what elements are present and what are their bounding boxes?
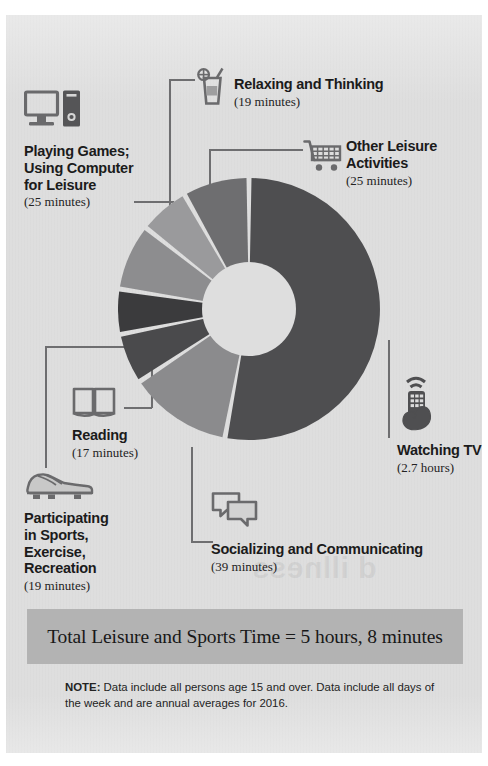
drink-glass-icon (195, 67, 229, 111)
open-book-icon (72, 385, 138, 423)
infographic-page: d illness (6, 15, 482, 753)
tv-remote-hand-icon (397, 368, 482, 438)
donut-svg (118, 178, 380, 440)
chart-note-text: Data include all persons age 15 and over… (65, 681, 434, 709)
callout-reading-title: Reading (72, 427, 138, 444)
callout-other-leisure-value: (25 minutes) (346, 173, 437, 189)
connector-watching-tv-vertical (388, 340, 390, 438)
total-leisure-time-bar: Total Leisure and Sports Time = 5 hours,… (27, 609, 463, 664)
total-leisure-time-text: Total Leisure and Sports Time = 5 hours,… (47, 626, 443, 648)
callout-other-leisure-title-line2: Activities (346, 155, 437, 172)
donut-hole (202, 262, 296, 356)
callout-other-leisure-title-line1: Other Leisure (346, 138, 437, 155)
connector-other-leisure-horizontal (209, 149, 303, 151)
callout-playing-games-title-line2: Using Computer (24, 160, 174, 177)
chart-note-prefix: NOTE: (65, 681, 100, 693)
callout-sports-title-line3: Exercise, (24, 544, 164, 561)
shopping-cart-icon (303, 139, 343, 177)
callout-playing-games-title: Playing Games; Using Computer for Leisur… (24, 143, 174, 193)
callout-socializing[interactable]: Socializing and Communicating (39 minute… (211, 491, 423, 574)
callout-playing-games-title-line3: for Leisure (24, 177, 174, 194)
connector-socializing-vertical (191, 447, 193, 542)
callout-other-leisure-title: Other Leisure Activities (346, 138, 437, 172)
connector-reading-vertical (45, 346, 47, 468)
callout-sports-title: Participating in Sports, Exercise, Recre… (24, 510, 164, 577)
desktop-computer-icon (24, 89, 174, 137)
sport-shoe-icon (24, 465, 164, 505)
callout-reading[interactable]: Reading (17 minutes) (72, 385, 138, 460)
callout-relaxing-thinking-value: (19 minutes) (234, 94, 383, 110)
callout-watching-tv-value: (2.7 hours) (397, 460, 482, 476)
connector-socializing-horizontal (191, 541, 213, 543)
connector-relaxing-horizontal (169, 79, 195, 81)
callout-reading-value: (17 minutes) (72, 445, 138, 461)
callout-playing-games[interactable]: Playing Games; Using Computer for Leisur… (24, 89, 174, 210)
callout-sports-title-line4: Recreation (24, 560, 164, 577)
callout-other-leisure[interactable]: Other Leisure Activities (25 minutes) (303, 137, 437, 188)
callout-playing-games-value: (25 minutes) (24, 194, 174, 210)
callout-sports-title-line2: in Sports, (24, 527, 164, 544)
leisure-time-donut-chart (118, 178, 380, 440)
callout-socializing-value: (39 minutes) (211, 559, 423, 575)
callout-relaxing-thinking[interactable]: Relaxing and Thinking (19 minutes) (195, 67, 383, 111)
chart-note: NOTE: Data include all persons age 15 an… (65, 679, 445, 711)
callout-socializing-title: Socializing and Communicating (211, 541, 423, 558)
callout-watching-tv-title: Watching TV (397, 442, 482, 459)
speech-bubbles-icon (211, 491, 423, 535)
callout-watching-tv[interactable]: Watching TV (2.7 hours) (397, 368, 482, 475)
callout-playing-games-title-line1: Playing Games; (24, 143, 174, 160)
callout-sports-value: (19 minutes) (24, 578, 164, 594)
callout-relaxing-thinking-title: Relaxing and Thinking (234, 76, 383, 93)
callout-sports-title-line1: Participating (24, 510, 164, 527)
callout-sports[interactable]: Participating in Sports, Exercise, Recre… (24, 465, 164, 594)
